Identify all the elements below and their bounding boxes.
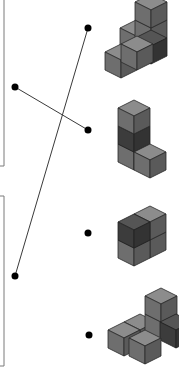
cube-figure-3 [118,206,166,266]
left-box-1 [0,0,4,166]
matching-diagram [0,0,179,374]
cube-figure-1 [105,0,167,78]
right-dot-2[interactable] [85,127,92,134]
left-box-2 [0,196,4,366]
cube-figure-4 [108,288,179,364]
left-dot-2[interactable] [12,273,19,280]
left-dot-1[interactable] [12,84,19,91]
connection-line-1[interactable] [15,87,88,130]
right-dot-3[interactable] [85,230,92,237]
cube-figure-2 [118,100,166,178]
connection-line-2[interactable] [15,28,88,276]
right-dot-1[interactable] [85,25,92,32]
right-dot-4[interactable] [86,332,93,339]
